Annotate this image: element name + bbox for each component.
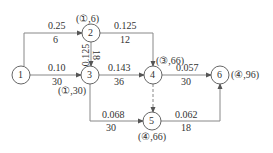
edge-3-5-top: 0.068 (102, 110, 125, 120)
edge-5-6-bottom: 18 (181, 123, 191, 133)
edge-5-6-top: 0.062 (175, 110, 198, 120)
edge-1-3-top: 0.10 (48, 63, 66, 73)
edge-4-6-bottom: 30 (181, 77, 191, 87)
edge-1-2-top: 0.25 (48, 21, 66, 31)
edge-2-4-bottom: 12 (120, 35, 130, 45)
node-3-annotation: (①,30) (58, 86, 86, 96)
node-3-label: 3 (87, 70, 92, 80)
edge-2-4-top: 0.125 (114, 21, 137, 31)
edge-1-3-bottom: 30 (52, 77, 62, 87)
node-2-annotation: (①,6) (76, 14, 99, 24)
node-2-label: 2 (88, 28, 93, 38)
edge-2-3-bottom: 18 (91, 50, 101, 60)
edge-3-4-top: 0.143 (108, 63, 131, 73)
edge-4-6-top: 0.057 (176, 63, 199, 73)
edge-2-3-top: 0.125 (81, 44, 91, 67)
node-5-annotation: (④,66) (138, 132, 166, 142)
node-6-annotation: (④,96) (231, 70, 259, 80)
network-diagram: 1 2 3 4 5 6 (①,6) (①,30) (③,66) (④,66) (… (0, 0, 273, 153)
node-4-label: 4 (150, 70, 155, 80)
node-1-label: 1 (18, 70, 23, 80)
node-5-label: 5 (149, 116, 154, 126)
edge-3-5-bottom: 30 (106, 123, 116, 133)
node-6-label: 6 (217, 70, 222, 80)
edge-1-2-bottom: 6 (53, 35, 58, 45)
edge-3-4-bottom: 36 (114, 77, 124, 87)
